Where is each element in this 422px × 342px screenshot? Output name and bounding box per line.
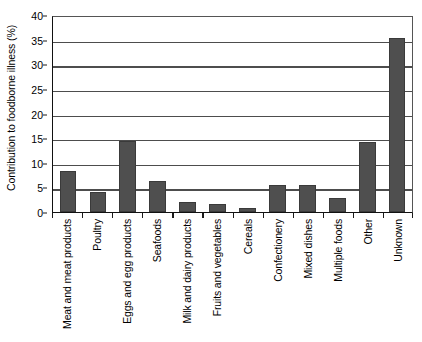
bar-cell: [173, 17, 203, 212]
x-axis-category-label: Unknown: [393, 219, 404, 262]
x-axis-tick-mark: [353, 213, 354, 218]
x-axis-tick-mark: [142, 213, 143, 218]
x-axis-tick-mark: [383, 213, 384, 218]
x-label-cell: Milk and dairy products: [172, 219, 202, 339]
x-axis-category-label: Poultry: [92, 219, 103, 251]
x-label-cell: Unknown: [383, 219, 413, 339]
x-axis-category-labels: Meat and meat productsPoultryEggs and eg…: [52, 219, 413, 339]
x-label-cell: Fruits and vegetables: [202, 219, 232, 339]
bar: [149, 181, 166, 212]
x-axis-tick-mark: [52, 213, 53, 218]
bar-cell: [113, 17, 143, 212]
x-label-cell: Meat and meat products: [52, 219, 82, 339]
bar: [119, 141, 136, 212]
bar: [60, 171, 77, 212]
y-axis-tick-label: 25: [31, 84, 43, 96]
y-axis-tick-mark: [43, 89, 47, 90]
x-axis-tick-mark: [263, 213, 264, 218]
x-label-cell: Multiple foods: [323, 219, 353, 339]
x-axis-category-label: Cereals: [242, 219, 253, 254]
x-axis-tick-mark: [412, 213, 413, 218]
bar: [90, 192, 107, 212]
y-axis-tick-label: 15: [31, 133, 43, 145]
bar: [329, 198, 346, 212]
y-axis-tick-label: 40: [31, 10, 43, 22]
bar-cell: [233, 17, 263, 212]
y-axis-tick-mark: [43, 40, 47, 41]
bar-series: [53, 17, 412, 212]
x-axis-category-label: Multiple foods: [332, 219, 343, 282]
x-label-cell: Other: [353, 219, 383, 339]
x-axis-tick-mark: [82, 213, 83, 218]
plot-area: [52, 16, 413, 213]
y-axis-tick-mark: [43, 188, 47, 189]
bar-cell: [143, 17, 173, 212]
x-axis-tick-mark: [112, 213, 113, 218]
y-axis-tick-mark: [43, 213, 47, 214]
y-axis-tick-label: 30: [31, 59, 43, 71]
y-axis-tick-mark: [43, 16, 47, 17]
x-label-cell: Eggs and egg products: [112, 219, 142, 339]
bar-cell: [382, 17, 412, 212]
bar-cell: [203, 17, 233, 212]
x-axis-category-label: Mixed dishes: [302, 219, 313, 278]
bar-cell: [292, 17, 322, 212]
y-axis-tick-label: 10: [31, 158, 43, 170]
x-axis-tick-mark: [293, 213, 294, 218]
bar-cell: [352, 17, 382, 212]
x-axis-category-label: Meat and meat products: [62, 219, 73, 329]
y-axis-tick-mark: [43, 114, 47, 115]
bar-chart-figure: Contribution to foodborne illness (%) 05…: [0, 0, 422, 342]
bar-cell: [322, 17, 352, 212]
bar-cell: [53, 17, 83, 212]
x-label-cell: Confectionery: [263, 219, 293, 339]
x-axis-category-label: Seafoods: [152, 219, 163, 262]
x-label-cell: Mixed dishes: [293, 219, 323, 339]
x-axis-tick-mark: [323, 213, 324, 218]
y-axis-tick-label: 35: [31, 35, 43, 47]
bar-cell: [262, 17, 292, 212]
bar: [239, 208, 256, 212]
bar-cell: [83, 17, 113, 212]
x-axis-category-label: Confectionery: [272, 219, 283, 282]
x-label-cell: Cereals: [232, 219, 262, 339]
y-axis-tick-mark: [43, 65, 47, 66]
y-axis-tick-label: 20: [31, 109, 43, 121]
bar: [389, 38, 406, 212]
x-axis-tick-mark: [202, 213, 203, 218]
y-axis-tick-mark: [43, 139, 47, 140]
x-axis-tick-mark: [172, 213, 173, 218]
bar: [209, 204, 226, 212]
x-label-cell: Seafoods: [142, 219, 172, 339]
y-axis-tick-labels: 0510152025303540: [22, 12, 47, 213]
bar: [269, 185, 286, 212]
x-axis-category-label: Eggs and egg products: [122, 219, 133, 324]
x-axis-category-label: Milk and dairy products: [182, 219, 193, 324]
y-axis-tick-mark: [43, 163, 47, 164]
y-axis-title: Contribution to foodborne illness (%): [0, 0, 22, 216]
x-label-cell: Poultry: [82, 219, 112, 339]
y-axis-title-text: Contribution to foodborne illness (%): [5, 25, 17, 191]
x-axis-category-label: Fruits and vegetables: [212, 219, 223, 316]
x-axis-category-label: Other: [363, 219, 374, 245]
bar: [179, 202, 196, 212]
x-axis-tick-mark: [233, 213, 234, 218]
bar: [299, 185, 316, 212]
bar: [359, 142, 376, 212]
